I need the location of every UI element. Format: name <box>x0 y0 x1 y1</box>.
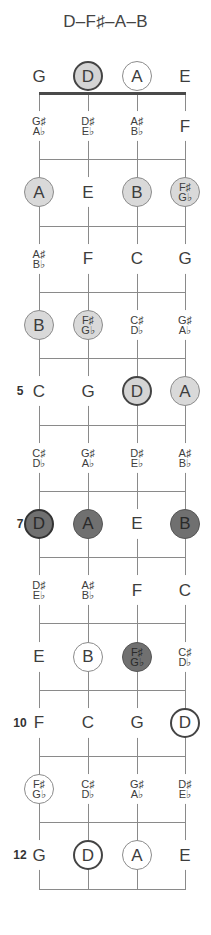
note-marker: F♯G♭ <box>122 642 152 672</box>
note-flat: B♭ <box>82 590 95 600</box>
note-marker: A <box>122 61 152 91</box>
note-label: F <box>180 118 190 135</box>
note-flat: A♭ <box>130 789 144 799</box>
note-marker: G <box>24 61 54 91</box>
fret-line <box>39 226 186 227</box>
note-marker: D <box>73 840 103 870</box>
fret-line <box>39 358 186 359</box>
note-label: C <box>82 714 94 731</box>
fret-number: 7 <box>12 517 28 531</box>
note-label: D <box>82 847 94 864</box>
note-label: A♯B♭ <box>131 116 144 136</box>
note-marker: A♯B♭ <box>122 111 152 141</box>
note-label: A <box>179 383 190 400</box>
note-flat: E♭ <box>81 126 94 136</box>
note-label: G <box>32 68 45 85</box>
fret-line <box>39 756 186 757</box>
note-marker: E <box>170 61 200 91</box>
note-label: D♯E♭ <box>81 116 94 136</box>
fret-line <box>39 822 186 823</box>
note-marker: A <box>170 376 200 406</box>
note-label: E <box>179 847 190 864</box>
note-marker: G♯A♭ <box>73 443 103 473</box>
fret-line <box>39 690 186 691</box>
note-marker: A♯B♭ <box>24 244 54 274</box>
note-flat: B♭ <box>33 259 46 269</box>
note-marker: G <box>73 376 103 406</box>
note-label: D♯E♭ <box>130 448 143 468</box>
note-marker: G♯A♭ <box>24 111 54 141</box>
note-marker: A <box>122 840 152 870</box>
note-marker: D <box>122 376 152 406</box>
note-label: D <box>179 714 191 731</box>
note-label: F <box>132 582 142 599</box>
note-marker: D♯E♭ <box>73 111 103 141</box>
fret-number: 5 <box>12 384 28 398</box>
note-label: F♯G♭ <box>130 647 144 667</box>
note-marker: D♯E♭ <box>24 575 54 605</box>
note-marker: G <box>24 840 54 870</box>
note-marker: G♯A♭ <box>122 774 152 804</box>
note-label: F <box>83 250 93 267</box>
note-label: D <box>33 515 45 532</box>
note-label: C <box>131 250 143 267</box>
note-label: E <box>33 648 44 665</box>
note-label: G <box>130 714 143 731</box>
note-label: G <box>178 250 191 267</box>
note-marker: D <box>73 61 103 91</box>
note-marker: F <box>24 708 54 738</box>
nut <box>39 92 186 95</box>
note-label: B <box>82 648 93 665</box>
note-label: C♯D♭ <box>178 647 191 667</box>
note-label: A♯B♭ <box>82 580 95 600</box>
note-marker: F♯G♭ <box>73 310 103 340</box>
note-flat: E♭ <box>32 590 45 600</box>
note-marker: E <box>122 509 152 539</box>
note-label: F♯G♭ <box>178 182 192 202</box>
note-marker: G <box>122 708 152 738</box>
note-label: C♯D♭ <box>130 315 143 335</box>
note-marker: C♯D♭ <box>170 642 200 672</box>
note-marker: G <box>170 244 200 274</box>
note-label: F♯G♭ <box>32 779 46 799</box>
note-flat: E♭ <box>178 789 191 799</box>
note-marker: D <box>170 708 200 738</box>
note-marker: E <box>24 642 54 672</box>
note-label: G♯A♭ <box>32 116 46 136</box>
note-label: G♯A♭ <box>81 448 95 468</box>
note-label: B <box>131 184 142 201</box>
note-label: B <box>179 515 190 532</box>
fret-line <box>39 159 186 160</box>
fret-number: 10 <box>12 716 28 730</box>
note-label: A♯B♭ <box>33 249 46 269</box>
note-flat: A♭ <box>32 126 46 136</box>
fretboard: GDAEG♯A♭D♯E♭A♯B♭FAEBF♯G♭A♯B♭FCGBF♯G♭C♯D♭… <box>0 0 211 935</box>
note-label: A <box>131 847 142 864</box>
note-marker: C♯D♭ <box>122 310 152 340</box>
note-flat: E♭ <box>130 458 143 468</box>
note-flat: G♭ <box>130 657 144 667</box>
note-label: A <box>82 515 93 532</box>
note-marker: G♯A♭ <box>170 310 200 340</box>
fret-line <box>39 491 186 492</box>
note-marker: C♯D♭ <box>24 443 54 473</box>
note-label: A <box>131 68 142 85</box>
note-flat: A♭ <box>81 458 95 468</box>
note-marker: C <box>122 244 152 274</box>
note-flat: G♭ <box>178 192 192 202</box>
note-label: D <box>131 383 143 400</box>
note-flat: B♭ <box>179 458 192 468</box>
note-label: F <box>34 714 44 731</box>
note-label: G♯A♭ <box>178 315 192 335</box>
note-marker: D♯E♭ <box>122 443 152 473</box>
note-marker: D <box>24 509 54 539</box>
note-marker: A♯B♭ <box>170 443 200 473</box>
fret-line <box>39 623 186 624</box>
note-marker: C <box>170 575 200 605</box>
note-flat: G♭ <box>81 325 95 335</box>
note-flat: D♭ <box>178 657 191 667</box>
note-marker: E <box>170 840 200 870</box>
note-marker: C <box>24 376 54 406</box>
note-flat: D♭ <box>81 789 94 799</box>
note-label: D♯E♭ <box>178 779 191 799</box>
